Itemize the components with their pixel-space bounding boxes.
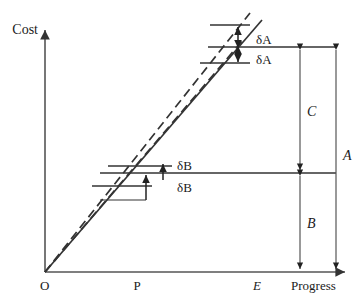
dimension-lines <box>300 50 336 269</box>
upper-bound-line <box>45 13 250 272</box>
x-axis-label: Progress <box>291 278 336 293</box>
x-tick-label-p: P <box>133 278 140 293</box>
delta-b-lower-label: δB <box>177 180 192 195</box>
origin-label: O <box>40 278 49 293</box>
delta-b-upper-label: δB <box>177 158 192 173</box>
x-tick-label-e: E <box>252 278 261 293</box>
delta-a-lower-label: δA <box>256 52 272 67</box>
dimension-c-label: C <box>307 104 317 119</box>
diagram-canvas: Cost Progress O P E δA δA δB δB C B A <box>0 0 360 303</box>
y-axis-label: Cost <box>12 22 38 37</box>
cost-curves <box>45 13 262 272</box>
delta-a-upper-label: δA <box>256 32 272 47</box>
dimension-b-label: B <box>307 216 316 231</box>
cost-progress-diagram: Cost Progress O P E δA δA δB δB C B A <box>0 0 360 303</box>
dimension-a-label: A <box>342 148 352 163</box>
